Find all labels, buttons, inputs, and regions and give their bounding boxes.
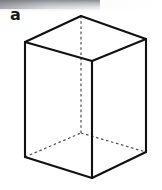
figure-container: a [0, 0, 162, 190]
rectangular-prism-diagram [0, 0, 162, 190]
front-right-face-overlay [92, 39, 146, 178]
front-left-face-overlay [25, 42, 92, 178]
figure-part-label: a [10, 7, 21, 23]
